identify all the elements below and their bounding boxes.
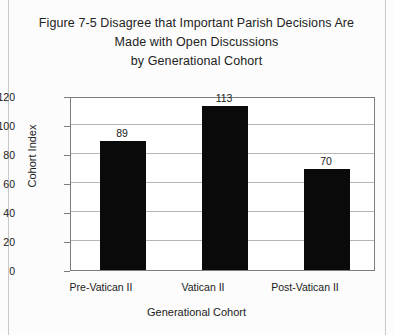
y-axis-tick-20: 20 bbox=[0, 236, 15, 248]
chart-title-line-1: Figure 7-5 Disagree that Important Paris… bbox=[0, 14, 393, 33]
bar-value-label-3: 70 bbox=[296, 155, 356, 167]
bar-vatican-ii bbox=[202, 106, 248, 270]
bar-post-vatican-ii bbox=[304, 169, 350, 271]
chart-title-line-2: Made with Open Discussions bbox=[0, 33, 393, 52]
y-axis-tick-0: 0 bbox=[0, 265, 15, 277]
y-axis-tick-40: 40 bbox=[0, 207, 15, 219]
document-page: Figure 7-5 Disagree that Important Paris… bbox=[0, 0, 393, 335]
bar-value-label-2: 113 bbox=[194, 92, 254, 104]
y-axis-tick-120: 120 bbox=[0, 91, 15, 103]
x-axis-tick-post-vatican-ii: Post-Vatican II bbox=[245, 281, 365, 293]
y-axis-tick-60: 60 bbox=[0, 178, 15, 190]
y-axis-tick-mark-0 bbox=[64, 271, 70, 272]
bar-value-label-1: 89 bbox=[92, 127, 152, 139]
y-axis-title: Cohort Index bbox=[26, 101, 38, 211]
y-axis-tick-80: 80 bbox=[0, 149, 15, 161]
y-axis-tick-100: 100 bbox=[0, 120, 15, 132]
chart-title: Figure 7-5 Disagree that Important Paris… bbox=[0, 14, 393, 71]
plot-area bbox=[70, 97, 375, 271]
bar-pre-vatican-ii bbox=[100, 141, 146, 270]
chart-title-line-3: by Generational Cohort bbox=[0, 52, 393, 71]
x-axis-title: Generational Cohort bbox=[0, 306, 393, 318]
